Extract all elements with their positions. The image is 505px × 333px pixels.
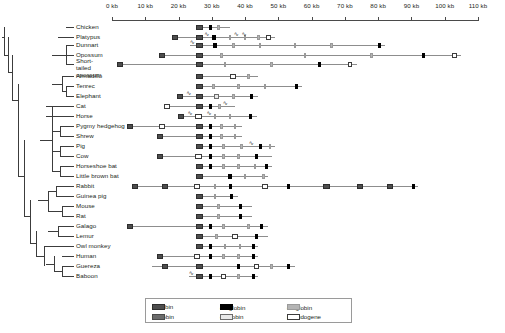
inversion-squiggle-icon: ∿ <box>190 40 195 45</box>
gene-alphaA <box>222 224 225 228</box>
gene-alphaD <box>287 184 290 189</box>
gene-track-line <box>197 206 252 207</box>
gene-alphaD <box>209 164 212 169</box>
gene-pseudogene <box>348 62 353 67</box>
gene-zeta <box>357 184 363 189</box>
gene-alphaA <box>259 43 262 47</box>
gene-alphaA <box>212 84 215 88</box>
gene-alphaD <box>422 53 425 58</box>
gene-alphaA <box>240 144 243 148</box>
gene-alphaD <box>213 43 216 48</box>
gene-alphaD <box>378 43 381 48</box>
gene-zeta <box>196 274 202 279</box>
gene-alphaD <box>255 234 258 239</box>
gene-zeta <box>178 114 184 119</box>
gene-track-line <box>197 246 259 247</box>
gene-alphaA <box>224 62 227 66</box>
gene-alphaD <box>209 124 212 129</box>
gene-pseudogene <box>221 274 226 279</box>
gene-alphaD <box>209 224 212 229</box>
gene-zeta <box>196 214 202 219</box>
gene-zeta <box>196 234 202 239</box>
gene-alphaA <box>237 254 240 258</box>
gene-alphaA <box>264 84 267 88</box>
gene-zeta <box>196 174 202 179</box>
legend-item-alphaD: αD-globin <box>220 303 245 311</box>
gene-alphaA <box>370 53 373 57</box>
legend-item-pseudogene: pseudogene <box>287 313 321 320</box>
gene-pseudogene <box>262 184 269 189</box>
gene-zeta <box>172 35 178 40</box>
gene-pseudogene <box>164 104 171 109</box>
gene-track-line <box>190 45 385 46</box>
gene-alphaA <box>222 154 225 158</box>
gene-zeta <box>196 264 202 269</box>
gene-pseudogene <box>266 35 271 40</box>
gene-track-line <box>129 126 242 127</box>
gene-alphaA <box>244 174 247 178</box>
inversion-squiggle-icon: ∿ <box>188 111 193 116</box>
gene-zeta <box>196 43 202 48</box>
gene-alphaA <box>224 244 227 248</box>
gene-alphaA <box>270 264 273 268</box>
gene-zeta <box>196 104 202 109</box>
gene-track-line <box>197 176 269 177</box>
gene-pseudogene <box>230 74 236 79</box>
gene-alphaA <box>222 164 225 168</box>
gene-alphaD <box>229 184 232 189</box>
gene-pseudogene <box>159 124 166 129</box>
gene-alphaD <box>209 134 212 139</box>
legend-swatch-pseudogene <box>287 314 300 320</box>
gene-alphaA <box>218 104 221 108</box>
gene-zeta <box>196 62 202 67</box>
gene-zeta <box>196 134 202 139</box>
gene-alphaD <box>209 274 212 279</box>
gene-zeta <box>157 254 163 259</box>
inversion-squiggle-icon: ∿ <box>241 32 246 37</box>
gene-alphaD <box>255 154 258 159</box>
gene-zeta <box>196 244 202 249</box>
gene-alphaD <box>209 25 212 30</box>
gene-zeta <box>196 84 202 89</box>
legend-swatch-alphaD <box>220 304 233 310</box>
gene-alphaD <box>230 194 233 199</box>
gene-alphaA <box>229 114 232 118</box>
gene-alphaA <box>222 144 225 148</box>
gene-zeta <box>196 74 202 79</box>
gene-alphaA <box>220 134 223 138</box>
gene-zeta <box>196 25 202 30</box>
gene-pseudogene <box>194 254 201 259</box>
gene-alphaA <box>220 124 223 128</box>
gene-alphaD <box>209 254 212 259</box>
legend-swatch-omega <box>220 314 233 320</box>
gene-zeta <box>162 264 168 269</box>
gene-zeta <box>387 184 393 189</box>
inversion-squiggle-icon: ∿ <box>223 101 228 106</box>
gene-alphaD <box>209 154 212 159</box>
inversion-squiggle-icon: ∿ <box>206 111 211 116</box>
gene-alphaD <box>209 104 212 109</box>
gene-alphaA <box>247 74 250 78</box>
gene-zeta <box>127 224 133 229</box>
gene-alphaD <box>228 174 231 179</box>
legend-box: ζ-globinαD-globinαA-globinθ-globinω-glob… <box>145 298 352 323</box>
gene-zeta <box>196 224 202 229</box>
gene-alphaA <box>222 254 225 258</box>
gene-alphaD <box>237 264 240 269</box>
gene-pseudogene <box>254 264 259 269</box>
inversion-squiggle-icon: ∿ <box>234 32 239 37</box>
gene-zeta <box>132 184 138 189</box>
gene-alphaA <box>304 53 307 57</box>
gene-alphaA <box>247 224 250 228</box>
gene-alphaD <box>252 254 255 259</box>
gene-tracks: ∿∿∿∿∿∿∿∿∿∿ <box>0 0 505 300</box>
inversion-squiggle-icon: ∿ <box>204 32 209 37</box>
legend-item-zeta: ζ-globin <box>152 303 173 310</box>
gene-alphaA <box>257 35 260 39</box>
gene-alphaD <box>260 224 263 229</box>
inversion-squiggle-icon: ∿ <box>249 141 254 146</box>
gene-zeta <box>162 184 168 189</box>
gene-alphaA <box>237 84 240 88</box>
gene-alphaA <box>217 25 220 29</box>
gene-zeta <box>177 94 183 99</box>
